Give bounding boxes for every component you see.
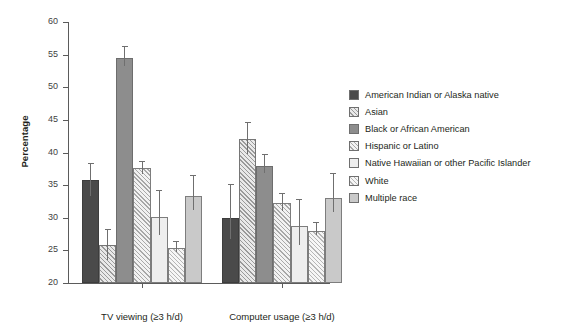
y-tick-label: 45 [18,115,58,124]
bar [273,203,290,283]
error-bar-cap-top [313,222,319,223]
y-tick-35 [63,185,68,186]
y-tick-label: 20 [18,278,58,287]
legend-label: Native Hawaiian or other Pacific Islande… [365,158,530,168]
legend-swatch-icon [349,176,359,186]
legend: American Indian or Alaska nativeAsianBla… [349,86,530,206]
legend-swatch-icon [349,158,359,168]
y-tick-45 [63,120,68,121]
legend-swatch-icon [349,193,359,203]
legend-swatch-icon [349,141,359,151]
bar [308,231,325,283]
y-tick-50 [63,87,68,88]
error-bar-line [282,193,283,211]
error-bar-cap-top [228,184,234,185]
legend-label: Hispanic or Latino [365,141,439,151]
error-bar-cap-top [122,46,128,47]
error-bar-line [230,184,231,239]
error-bar-line [124,46,125,66]
error-bar-line [142,161,143,174]
legend-label: Multiple race [365,193,417,203]
error-bar-line [316,222,317,234]
x-axis-line [68,283,330,284]
error-bar-cap-top [245,122,251,123]
legend-item[interactable]: American Indian or Alaska native [349,86,530,103]
legend-item[interactable]: Asian [349,103,530,120]
legend-item[interactable]: Multiple race [349,189,530,206]
legend-swatch-icon [349,107,359,117]
error-bar-cap-top [279,193,285,194]
error-bar-cap-top [296,199,302,200]
legend-label: White [365,176,389,186]
error-bar-line [333,173,334,211]
error-bar-line [107,229,108,260]
error-bar-line [193,175,194,210]
legend-swatch-icon [349,124,359,134]
x-axis-label: TV viewing (≥3 h/d) [101,312,183,322]
legend-item[interactable]: Native Hawaiian or other Pacific Islande… [349,155,530,172]
y-tick-label: 25 [18,245,58,254]
y-tick-40 [63,153,68,154]
y-tick-label: 30 [18,213,58,222]
error-bar-line [159,190,160,236]
error-bar-cap-top [105,229,111,230]
error-bar-cap-top [173,241,179,242]
y-tick-label: 55 [18,50,58,59]
y-tick-30 [63,218,68,219]
legend-label: American Indian or Alaska native [365,90,499,100]
bar [116,58,133,283]
legend-swatch-icon [349,90,359,100]
error-bar-cap-top [156,190,162,191]
legend-item[interactable]: Black or African American [349,120,530,137]
x-axis-label: Computer usage (≥3 h/d) [229,312,335,322]
y-tick-label: 35 [18,180,58,189]
legend-label: Asian [365,107,388,117]
error-bar-line [299,199,300,245]
y-tick-label: 60 [18,17,58,26]
plot-area: 202530354045505560 TV viewing (≥3 h/d)Co… [68,22,330,283]
error-bar-cap-top [330,173,336,174]
error-bar-cap-top [190,175,196,176]
legend-label: Black or African American [365,124,470,134]
error-bar-line [264,154,265,173]
legend-item[interactable]: White [349,172,530,189]
y-tick-20 [63,283,68,284]
y-axis-line [68,22,69,283]
y-tick-60 [63,22,68,23]
y-axis-title: Percentage [10,0,38,283]
bar [256,166,273,283]
y-tick-55 [63,55,68,56]
error-bar-cap-top [139,161,145,162]
legend-item[interactable]: Hispanic or Latino [349,138,530,155]
bar [133,168,150,283]
y-tick-label: 50 [18,82,58,91]
error-bar-cap-top [88,163,94,164]
error-bar-line [176,241,177,252]
error-bar-cap-top [262,154,268,155]
y-tick-25 [63,250,68,251]
x-tick [142,283,143,288]
y-tick-label: 40 [18,148,58,157]
error-bar-line [90,163,91,196]
bar [239,139,256,283]
error-bar-line [247,122,248,155]
x-tick [282,283,283,288]
bar [168,248,185,283]
